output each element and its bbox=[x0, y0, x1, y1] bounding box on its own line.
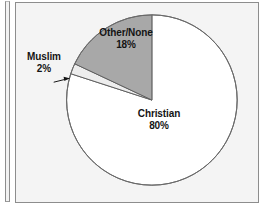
adjacent-panel-sliver bbox=[5, 1, 10, 202]
pie-label-muslim: Muslim 2% bbox=[4, 51, 84, 74]
pie-label-muslim-name: Muslim bbox=[4, 51, 84, 63]
pie-label-muslim-value: 2% bbox=[4, 63, 84, 75]
pie-label-christian-value: 80% bbox=[111, 120, 207, 132]
pie-label-other-none: Other/None 18% bbox=[78, 27, 174, 50]
pie-label-other-none-value: 18% bbox=[78, 39, 174, 51]
pie-label-christian: Christian 80% bbox=[111, 108, 207, 131]
pie-label-christian-name: Christian bbox=[111, 108, 207, 120]
pie-label-other-none-name: Other/None bbox=[78, 27, 174, 39]
figure-panel: Other/None 18% Muslim 2% Christian 80% bbox=[15, 2, 259, 203]
